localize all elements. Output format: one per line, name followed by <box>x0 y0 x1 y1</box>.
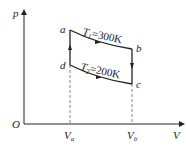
isotherm-upper-label: T1=300K <box>81 25 123 47</box>
point-c-label: c <box>136 78 141 90</box>
arrow-bc-icon <box>130 63 134 69</box>
y-axis-label: p <box>12 7 19 19</box>
pv-diagram: p V O a b c d Va Vb T1=300K T2=200K <box>0 0 186 154</box>
isotherm-lower-label: T2=200K <box>79 60 121 82</box>
diagram-canvas: p V O a b c d Va Vb T1=300K T2=200K <box>0 0 186 154</box>
vb-tick-label: Vb <box>127 129 138 143</box>
point-d-label: d <box>60 59 66 71</box>
point-a-label: a <box>60 23 66 35</box>
va-tick-label: Va <box>64 129 75 143</box>
arrow-da-icon <box>68 44 72 50</box>
point-b-label: b <box>136 42 142 54</box>
x-axis-label: V <box>173 129 181 141</box>
origin-label: O <box>12 118 20 130</box>
